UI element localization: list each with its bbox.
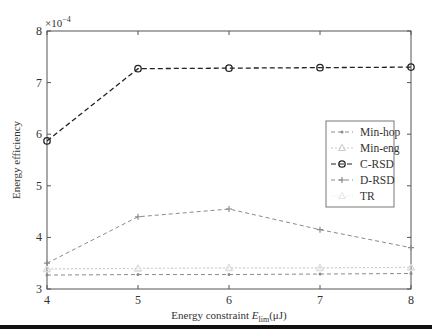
y-tick-label: 7 [36,76,42,90]
series-line [47,209,411,263]
legend-label: Min-eng [360,142,400,155]
y-tick-label: 8 [36,24,42,38]
x-tick-label: 8 [408,293,414,307]
y-tick-label: 3 [36,282,42,296]
y-tick-label: 6 [36,127,42,141]
legend-label: Min-hop [360,126,401,139]
plus-marker [317,227,323,233]
page-bottom-rule [0,325,432,329]
line-chart: 45678345678×10−4Energy efficiencyEnergy … [0,0,432,336]
dot-marker [46,274,49,277]
series-line [47,268,411,270]
dot-marker [341,131,344,134]
x-tick-label: 4 [44,293,50,307]
legend-label: D-RSD [360,174,395,186]
y-multiplier: ×10−4 [45,15,71,29]
dot-marker [137,273,140,276]
plus-marker [226,206,232,212]
dot-marker [228,273,231,276]
plus-marker [408,245,414,251]
dot-marker [410,272,413,275]
legend-label: TR [360,190,375,202]
legend-label: C-RSD [360,158,394,170]
y-axis-label: Energy efficiency [10,120,22,199]
legend: Min-hopMin-engC-RSDD-RSDTR [326,121,401,207]
x-axis-label: Energy constraint Elim(μJ) [171,309,287,324]
series-min-hop [46,272,413,277]
y-tick-label: 4 [36,230,42,244]
x-tick-label: 6 [226,293,232,307]
x-tick-label: 5 [135,293,141,307]
y-tick-label: 5 [36,179,42,193]
dot-marker [319,273,322,276]
series-d-rsd [44,206,414,266]
plus-marker [135,214,141,220]
x-tick-label: 7 [317,293,323,307]
